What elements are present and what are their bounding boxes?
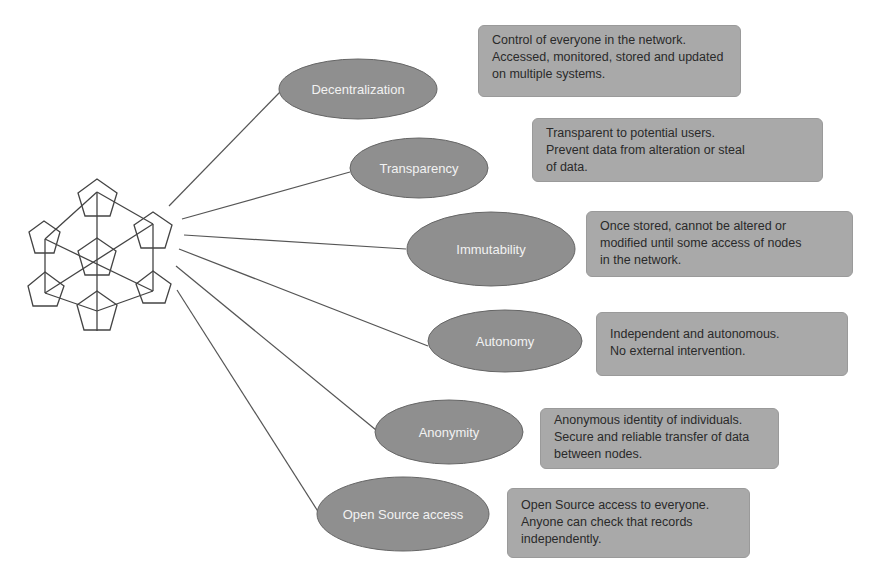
description-box-autonomy: Independent and autonomous. No external … xyxy=(596,312,848,376)
ellipse-autonomy: Autonomy xyxy=(428,310,582,372)
ellipse-anonymity: Anonymity xyxy=(375,400,523,464)
label-open-source-access: Open Source access xyxy=(343,507,464,522)
description-line: Open Source access to everyone. xyxy=(521,497,739,514)
label-immutability: Immutability xyxy=(456,242,526,257)
ellipse-open-source-access: Open Source access xyxy=(317,477,489,551)
description-line: Anonymous identity of individuals. xyxy=(554,412,768,429)
description-line: No external intervention. xyxy=(610,343,837,360)
description-line: Once stored, cannot be altered or xyxy=(600,218,842,235)
description-box-immutability: Once stored, cannot be altered or modifi… xyxy=(586,211,853,277)
description-line: on multiple systems. xyxy=(492,66,730,83)
description-box-open-source-access: Open Source access to everyone. Anyone c… xyxy=(507,488,750,558)
description-line: Prevent data from alteration or steal xyxy=(546,142,812,159)
description-line: Secure and reliable transfer of data xyxy=(554,429,768,446)
connector-open-source xyxy=(177,290,319,513)
description-box-decentralization: Control of everyone in the network. Acce… xyxy=(478,25,741,97)
description-line: Control of everyone in the network. xyxy=(492,32,730,49)
label-autonomy: Autonomy xyxy=(476,334,535,349)
description-line: of data. xyxy=(546,159,812,176)
connector-anonymity xyxy=(176,266,376,430)
ellipse-immutability: Immutability xyxy=(407,212,575,286)
ellipse-transparency: Transparency xyxy=(350,138,488,198)
description-box-anonymity: Anonymous identity of individuals. Secur… xyxy=(540,408,779,469)
pentagon-node-lower-left xyxy=(28,272,64,306)
description-box-transparency: Transparent to potential users. Prevent … xyxy=(532,118,823,182)
description-line: independently. xyxy=(521,531,739,548)
description-line: Accessed, monitored, stored and updated xyxy=(492,49,730,66)
description-line: Transparent to potential users. xyxy=(546,125,812,142)
label-decentralization: Decentralization xyxy=(311,82,404,97)
description-line: modified until some access of nodes xyxy=(600,235,842,252)
connector-decentralization xyxy=(169,91,281,206)
description-line: between nodes. xyxy=(554,446,768,463)
ellipse-decentralization: Decentralization xyxy=(279,59,437,119)
blockchain-network-icon xyxy=(28,179,172,331)
label-anonymity: Anonymity xyxy=(419,425,480,440)
description-line: in the network. xyxy=(600,252,842,269)
connector-immutability xyxy=(184,235,406,249)
connector-transparency xyxy=(182,172,350,219)
label-transparency: Transparency xyxy=(380,161,459,176)
connector-autonomy xyxy=(179,249,428,346)
description-line: Anyone can check that records xyxy=(521,514,739,531)
description-line: Independent and autonomous. xyxy=(610,326,837,343)
